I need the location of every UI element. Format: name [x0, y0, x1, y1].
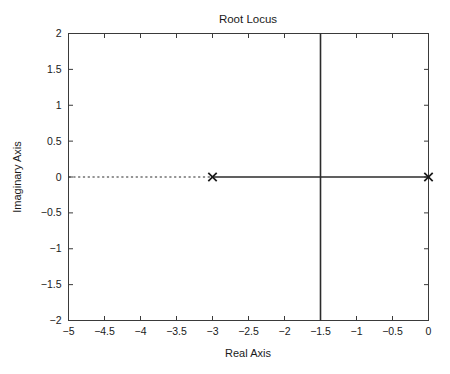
x-tick-label: −4: [135, 325, 147, 337]
plot-canvas: Root Locus −5−4.5−4−3.5−3−2.5−2−1.5−1−0.…: [0, 0, 450, 374]
x-tick-label: −4.5: [94, 325, 115, 337]
y-tick-labels: −2−1.5−1−0.500.511.52: [41, 27, 62, 326]
x-tick-label: −2: [279, 325, 291, 337]
x-tick-label: −5: [63, 325, 75, 337]
x-tick-label: −1.5: [310, 325, 331, 337]
y-axis-label: Imaginary Axis: [11, 141, 23, 213]
x-tick-label: 0: [426, 325, 432, 337]
y-tick-label: 2: [56, 27, 62, 39]
root-locus-figure: Root Locus −5−4.5−4−3.5−3−2.5−2−1.5−1−0.…: [0, 0, 450, 374]
x-tick-label: −0.5: [382, 325, 403, 337]
x-tick-label: −2.5: [238, 325, 259, 337]
y-tick-label: 0.5: [47, 135, 62, 147]
x-axis-label: Real Axis: [225, 347, 271, 359]
x-tick-label: −3.5: [166, 325, 187, 337]
x-tick-label: −1: [351, 325, 363, 337]
chart-title: Root Locus: [219, 13, 277, 25]
locus-branches: [213, 34, 429, 321]
y-tick-label: 1: [56, 99, 62, 111]
y-tick-label: 0: [56, 171, 62, 183]
y-tick-label: 1.5: [47, 63, 62, 75]
y-tick-label: −1: [50, 242, 62, 254]
x-tick-label: −3: [207, 325, 219, 337]
y-tick-label: −0.5: [41, 206, 62, 218]
y-tick-label: −2: [50, 314, 62, 326]
y-tick-label: −1.5: [41, 278, 62, 290]
x-tick-labels: −5−4.5−4−3.5−3−2.5−2−1.5−1−0.50: [63, 325, 432, 337]
